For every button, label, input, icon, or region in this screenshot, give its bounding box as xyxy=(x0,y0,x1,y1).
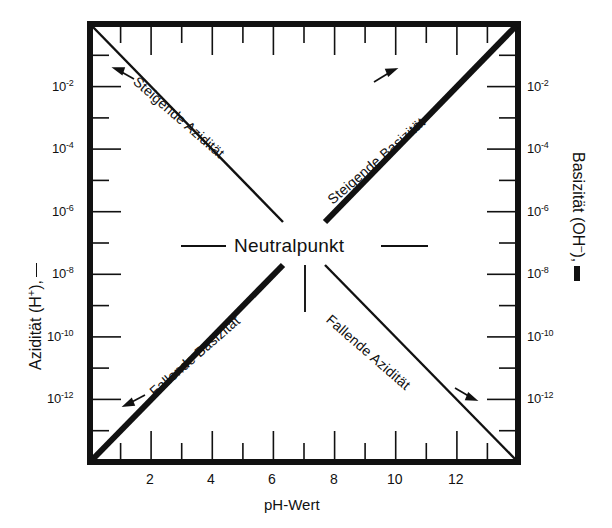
x-tick-label-12: 12 xyxy=(448,472,464,486)
arrow-rising-acidity xyxy=(114,68,134,79)
y-tick-label-right-4: 10-10 xyxy=(527,329,553,343)
x-tick-label-2: 2 xyxy=(146,472,154,486)
y-tick-label-right-3: 10-8 xyxy=(527,266,548,280)
y-tick-label-left-4: 10-10 xyxy=(47,329,73,343)
y-tick-label-left-0: 10-2 xyxy=(52,79,73,93)
y-axis-title-left: Azidität (H+), xyxy=(26,263,44,370)
arrow-falling-acidity xyxy=(455,388,476,400)
arrow-rising-basicity xyxy=(374,69,396,82)
x-tick-label-8: 8 xyxy=(330,472,338,486)
y-tick-label-right-5: 10-12 xyxy=(527,391,553,405)
y-tick-label-left-1: 10-4 xyxy=(52,141,73,155)
x-axis-ticks-top xyxy=(121,27,488,55)
y-tick-label-left-5: 10-12 xyxy=(47,391,73,405)
y-tick-label-right-1: 10-4 xyxy=(527,141,548,155)
x-tick-label-4: 4 xyxy=(207,472,215,486)
y-axis-ticks-right xyxy=(487,55,515,430)
diagram-canvas xyxy=(0,0,612,528)
x-axis-ticks xyxy=(121,431,488,459)
arrow-falling-basicity xyxy=(124,395,145,406)
x-axis-title: pH-Wert xyxy=(264,497,320,512)
y-tick-label-right-0: 10-2 xyxy=(527,79,548,93)
y-tick-label-right-2: 10-6 xyxy=(527,204,548,218)
ph-scale-figure: 10-2 10-4 10-6 10-8 10-10 10-12 10-2 10-… xyxy=(0,0,612,528)
y-tick-label-left-2: 10-6 xyxy=(52,204,73,218)
neutral-point-label: Neutralpunkt xyxy=(234,236,344,255)
legend-thin-line-swatch xyxy=(36,263,37,277)
legend-thick-line-swatch xyxy=(574,266,580,281)
y-axis-title-right: Basizität (OH–), xyxy=(570,152,588,281)
x-tick-label-10: 10 xyxy=(387,472,403,486)
y-tick-label-left-3: 10-8 xyxy=(52,266,73,280)
y-axis-ticks-left xyxy=(93,55,121,430)
x-tick-label-6: 6 xyxy=(268,472,276,486)
